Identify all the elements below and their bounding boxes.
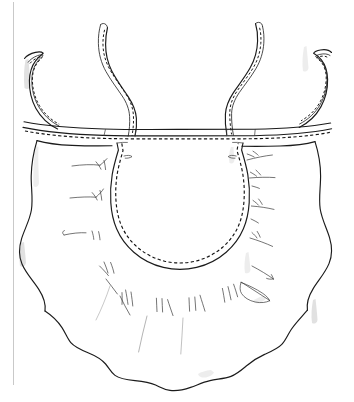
region-tie-inner-right — [222, 20, 266, 138]
region-hem — [40, 300, 316, 396]
figure-container: Gathered apron construction diagram Blac… — [0, 0, 354, 402]
region-tie-outer-right — [294, 46, 336, 130]
region-tie-inner-left — [94, 20, 140, 138]
region-center-panel — [108, 140, 252, 274]
region-tie-outer-left — [20, 48, 64, 132]
region-waistband — [18, 118, 336, 142]
apron-diagram-svg: Gathered apron construction diagram Blac… — [0, 0, 354, 402]
